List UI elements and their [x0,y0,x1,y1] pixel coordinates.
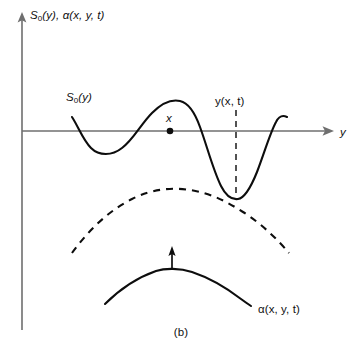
vertical-axis [18,12,27,330]
curve-s0y [72,101,287,200]
vertical-axis-label-main: S [30,9,38,21]
point-x-marker [167,128,174,135]
propagation-arrow-icon [168,246,175,269]
label-x-point: x [166,113,172,125]
label-s0y: S0(y) [66,92,92,105]
figure-canvas [0,0,362,355]
horizontal-axis-label: y [340,127,346,139]
figure-caption: (b) [0,327,362,339]
label-y-x-t: y(x, t) [215,96,244,108]
vertical-axis-label-rest: (y), α(x, y, t) [42,9,104,21]
figure-panel-b: S0(y), α(x, y, t) S0(y) y(x, t) x y α(x,… [0,0,362,355]
curve-characteristic-arc [72,189,289,253]
horizontal-axis [22,126,334,136]
vertical-axis-label: S0(y), α(x, y, t) [30,10,104,23]
curve-alpha [105,269,251,306]
label-s0y-main: S [66,91,74,103]
label-s0y-rest: (y) [78,91,92,103]
label-alpha: α(x, y, t) [258,304,300,316]
